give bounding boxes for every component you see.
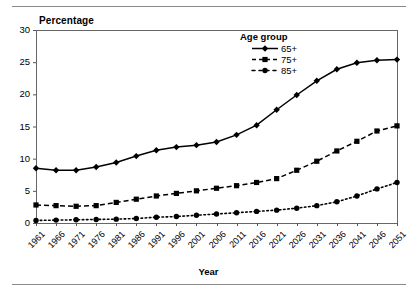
legend-entry-85plus: 85+	[250, 65, 297, 76]
data-point-marker	[234, 210, 239, 215]
data-point-marker	[354, 193, 359, 198]
data-point-marker	[262, 45, 268, 51]
legend-title: Age group	[240, 31, 288, 42]
data-point-marker	[334, 199, 339, 204]
y-tick-label: 0	[8, 217, 30, 228]
data-point-marker	[53, 203, 58, 208]
data-point-marker	[174, 191, 179, 196]
data-point-marker	[374, 128, 379, 133]
data-point-marker	[234, 183, 239, 188]
data-point-marker	[194, 188, 199, 193]
data-point-marker	[374, 186, 379, 191]
data-point-marker	[74, 204, 79, 209]
data-point-marker	[94, 203, 99, 208]
y-tick-label: 25	[8, 56, 30, 67]
data-point-marker	[254, 180, 259, 185]
data-point-marker	[334, 148, 339, 153]
legend-label: 65+	[280, 43, 297, 54]
plot-frame	[37, 31, 398, 224]
chart-figure: Percentage Year 302520151050 19611966197…	[0, 0, 417, 293]
data-point-marker	[314, 159, 319, 164]
y-tick-label: 30	[8, 24, 30, 35]
legend-entry-65plus: 65+	[250, 43, 297, 54]
data-point-marker	[73, 217, 78, 222]
data-point-marker	[33, 218, 38, 223]
data-point-marker	[214, 211, 219, 216]
legend-sample-75plus	[250, 54, 280, 65]
data-point-marker	[294, 206, 299, 211]
data-point-marker	[274, 207, 279, 212]
data-point-marker	[134, 216, 139, 221]
y-tick-label: 10	[8, 153, 30, 164]
y-tick-label: 20	[8, 88, 30, 99]
data-point-marker	[53, 217, 58, 222]
y-tick-label: 15	[8, 121, 30, 132]
data-point-marker	[114, 200, 119, 205]
legend-sample-85plus	[250, 65, 280, 76]
data-point-marker	[214, 186, 219, 191]
data-point-marker	[154, 193, 159, 198]
data-point-marker	[274, 176, 279, 181]
data-point-marker	[294, 168, 299, 173]
legend-label: 75+	[280, 54, 297, 65]
data-point-marker	[174, 214, 179, 219]
legend-entry-75plus: 75+	[250, 54, 297, 65]
data-point-marker	[134, 197, 139, 202]
legend-label: 85+	[280, 65, 297, 76]
data-point-marker	[314, 203, 319, 208]
data-point-marker	[262, 57, 267, 62]
data-point-marker	[354, 139, 359, 144]
data-point-marker	[33, 202, 38, 207]
data-point-marker	[114, 216, 119, 221]
data-point-marker	[93, 217, 98, 222]
legend-sample-65plus	[250, 43, 280, 54]
y-tick-label: 5	[8, 185, 30, 196]
data-point-marker	[394, 180, 399, 185]
data-point-marker	[194, 213, 199, 218]
data-point-marker	[394, 123, 399, 128]
data-point-marker	[154, 215, 159, 220]
data-point-marker	[262, 68, 267, 73]
data-point-marker	[254, 209, 259, 214]
